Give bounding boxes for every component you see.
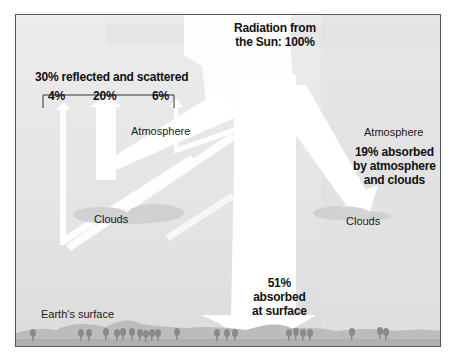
atmosphere-absorbed-line3: and clouds: [353, 173, 436, 187]
atmosphere-left-label: Atmosphere: [131, 125, 190, 137]
surface-absorbed-line3: at surface: [252, 304, 307, 318]
atmosphere-absorbed-label: 19% absorbed by atmosphere and clouds: [353, 145, 436, 187]
surface-absorbed-line2: absorbed: [252, 290, 307, 304]
reflected-surface-value: 4%: [48, 89, 65, 103]
reflected-clouds-value: 20%: [93, 89, 116, 103]
sun-radiation-line2: the Sun: 100%: [234, 35, 316, 49]
surface-absorbed-label: 51% absorbed at surface: [252, 276, 307, 318]
reflected-total-label: 30% reflected and scattered: [35, 70, 188, 84]
reflected-atmosphere-value: 6%: [152, 89, 169, 103]
clouds-left-label: Clouds: [94, 213, 128, 225]
energy-balance-diagram: Radiation from the Sun: 100% 30% reflect…: [15, 14, 441, 347]
sun-radiation-line1: Radiation from: [234, 21, 316, 35]
atmosphere-absorbed-line2: by atmosphere: [353, 159, 436, 173]
earth-surface-label: Earth's surface: [41, 308, 114, 320]
atmosphere-right-label: Atmosphere: [364, 126, 423, 138]
sun-radiation-label: Radiation from the Sun: 100%: [234, 21, 316, 49]
surface-absorbed-line1: 51%: [252, 276, 307, 290]
atmosphere-absorbed-line1: 19% absorbed: [353, 145, 436, 159]
clouds-right-label: Clouds: [346, 215, 380, 227]
